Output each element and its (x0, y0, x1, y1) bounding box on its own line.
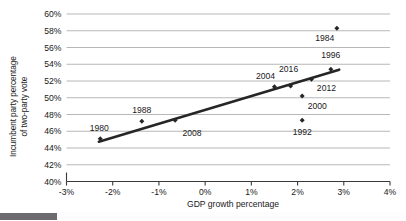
y-axis-tick-label: 44% (44, 143, 62, 153)
x-axis-tick-label: -1% (151, 187, 167, 197)
x-axis-tick-label: -3% (59, 187, 75, 197)
data-point-label: 1992 (293, 127, 312, 137)
scrollbar-track[interactable] (0, 212, 406, 221)
x-axis-tick-label: -2% (105, 187, 121, 197)
data-point-labels: 1980198820082004201620122000199219961984 (90, 33, 341, 138)
y-axis-tick-label: 50% (44, 93, 62, 103)
y-axis-tick-label: 46% (44, 126, 62, 136)
y-axis-tick-label: 60% (44, 9, 62, 19)
x-axis-title: GDP growth percentage (0, 199, 406, 209)
x-axis-tick-label: 3% (338, 187, 351, 197)
x-axis-tick-label: 1% (245, 187, 258, 197)
data-point-marker (139, 119, 144, 124)
data-points (98, 26, 340, 142)
y-axis-tick-labels: 40%42%44%46%48%50%52%54%56%58%60% (44, 9, 62, 187)
data-point-marker (300, 118, 305, 123)
x-axis-tick-label: 4% (384, 187, 397, 197)
x-axis-tick-label: 2% (291, 187, 304, 197)
data-point-marker (334, 26, 339, 31)
data-point-label: 2012 (317, 83, 336, 93)
y-axis-tick-label: 40% (44, 177, 62, 187)
scrollbar-thumb[interactable] (0, 213, 57, 220)
data-point-label: 1996 (321, 50, 340, 60)
y-axis-tick-label: 54% (44, 59, 62, 69)
y-axis-tick-label: 42% (44, 160, 62, 170)
scatter-plot: 40%42%44%46%48%50%52%54%56%58%60% -3%-2%… (0, 0, 406, 221)
y-axis-tick-label: 52% (44, 76, 62, 86)
y-axis-tick-label: 56% (44, 43, 62, 53)
axis-lines (67, 173, 391, 186)
x-axis-tick-labels: -3%-2%-1%0%1%2%3%4% (59, 187, 397, 197)
gridlines (67, 14, 391, 165)
data-point-label: 1980 (90, 123, 109, 133)
data-point-label: 2016 (279, 64, 298, 74)
data-point-label: 2004 (256, 71, 275, 81)
x-axis-tick-label: 0% (199, 187, 212, 197)
chart-figure: Incumbent party percentage of two-party … (0, 0, 406, 221)
y-axis-tick-label: 58% (44, 26, 62, 36)
data-point-label: 1984 (315, 33, 334, 43)
y-axis-tick-label: 48% (44, 110, 62, 120)
data-point-label: 2008 (183, 128, 202, 138)
x-axis-title-text: GDP growth percentage (187, 199, 279, 209)
data-point-label: 2000 (308, 101, 327, 111)
data-point-label: 1988 (132, 105, 151, 115)
